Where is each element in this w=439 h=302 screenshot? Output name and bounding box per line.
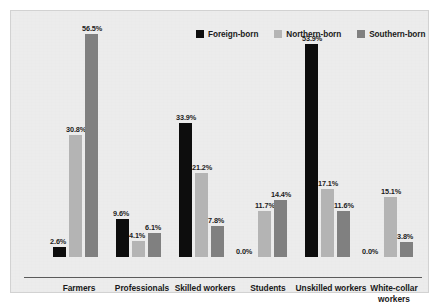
bar-value-label: 4.1% xyxy=(129,232,145,240)
bar-column[interactable]: 14.4% xyxy=(274,20,287,257)
bar-column[interactable]: 53.9% xyxy=(305,20,318,257)
bar[interactable] xyxy=(321,189,334,257)
bar-column[interactable]: 15.1% xyxy=(384,20,397,257)
bar-column[interactable]: 7.8% xyxy=(211,20,224,257)
plot-area: 2.6%30.8%56.5%Farmers9.6%4.1%6.1%Profess… xyxy=(24,20,416,257)
bar[interactable] xyxy=(274,200,287,257)
bar-value-label: 0.0% xyxy=(236,248,252,256)
bar-column[interactable]: 4.1% xyxy=(132,20,145,257)
bar-column[interactable]: 17.1% xyxy=(321,20,334,257)
bar-group: 53.9%17.1%11.6% xyxy=(305,20,350,257)
bar-value-label: 11.6% xyxy=(334,202,354,210)
bar-column[interactable]: 0.0% xyxy=(242,20,255,257)
bar-group: 0.0%11.7%14.4% xyxy=(242,20,287,257)
bar[interactable] xyxy=(305,44,318,257)
bar[interactable] xyxy=(53,247,66,257)
bar[interactable] xyxy=(116,219,129,257)
bar-group: 2.6%30.8%56.5% xyxy=(53,20,98,257)
bar-column[interactable]: 30.8% xyxy=(69,20,82,257)
bar[interactable] xyxy=(337,211,350,257)
x-axis-category-label-line: workers xyxy=(351,294,437,302)
bar-value-label: 11.7% xyxy=(255,202,275,210)
bar-column[interactable]: 21.2% xyxy=(195,20,208,257)
x-axis-category-label: White-collarworkers xyxy=(351,283,437,302)
bar-group: 9.6%4.1%6.1% xyxy=(116,20,161,257)
chart-figure: Foreign-bornNorthern-bornSouthern-born 2… xyxy=(0,0,439,302)
bar-value-label: 53.9% xyxy=(302,35,322,43)
x-axis-category-label-line: White-collar xyxy=(351,283,437,294)
bar-column[interactable]: 3.8% xyxy=(400,20,413,257)
bar[interactable] xyxy=(69,135,82,257)
bar[interactable] xyxy=(258,211,271,257)
bar-column[interactable]: 11.7% xyxy=(258,20,271,257)
bar-value-label: 30.8% xyxy=(66,126,86,134)
bar[interactable] xyxy=(195,173,208,257)
bar[interactable] xyxy=(132,241,145,257)
bar-value-label: 56.5% xyxy=(82,25,102,33)
bar-value-label: 14.4% xyxy=(271,191,291,199)
bar-value-label: 9.6% xyxy=(113,210,129,218)
bar[interactable] xyxy=(179,123,192,257)
bar-column[interactable]: 56.5% xyxy=(85,20,98,257)
bar[interactable] xyxy=(85,34,98,257)
bar-value-label: 7.8% xyxy=(208,217,224,225)
bar-column[interactable]: 9.6% xyxy=(116,20,129,257)
bar-column[interactable]: 33.9% xyxy=(179,20,192,257)
bar-value-label: 33.9% xyxy=(176,114,196,122)
bar-value-label: 17.1% xyxy=(318,180,338,188)
bar[interactable] xyxy=(148,233,161,257)
bar-group: 33.9%21.2%7.8% xyxy=(179,20,224,257)
bar-column[interactable]: 6.1% xyxy=(148,20,161,257)
bar-column[interactable]: 2.6% xyxy=(53,20,66,257)
bar[interactable] xyxy=(384,197,397,257)
bar-value-label: 2.6% xyxy=(50,238,66,246)
bar-column[interactable]: 11.6% xyxy=(337,20,350,257)
bar-value-label: 3.8% xyxy=(397,233,413,241)
bar-value-label: 21.2% xyxy=(192,164,212,172)
bar[interactable] xyxy=(400,242,413,257)
bar-column[interactable]: 0.0% xyxy=(368,20,381,257)
bar[interactable] xyxy=(211,226,224,257)
x-axis-line xyxy=(24,277,422,278)
bar-group: 0.0%15.1%3.8% xyxy=(368,20,413,257)
bar-value-label: 15.1% xyxy=(381,188,401,196)
bar-value-label: 0.0% xyxy=(362,248,378,256)
bar-value-label: 6.1% xyxy=(145,224,161,232)
